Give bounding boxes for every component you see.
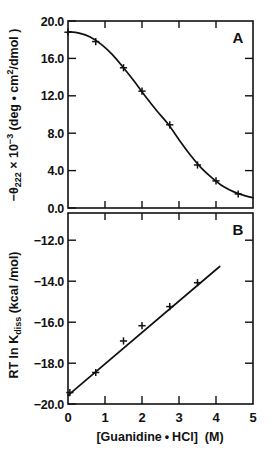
xtick-4: 4 [212, 410, 220, 425]
panel-b-ytick-neg18: −18.0 [34, 357, 64, 371]
panel-b: −12.0 −14.0 −16.0 −18.0 −20.0 B [34, 213, 253, 412]
svg-text:−θ222 × 10−3 (deg • cm2/dmol ): −θ222 × 10−3 (deg • cm2/dmol ) [5, 29, 23, 202]
panel-a-ytick-4: 4.0 [48, 164, 65, 178]
panel-a-curve [68, 32, 253, 198]
svg-text:[Guanidine•HCl](M): [Guanidine•HCl](M) [96, 430, 223, 444]
panel-b-right-ticks [245, 240, 253, 363]
panel-b-top-ticks [105, 213, 216, 220]
panel-b-ytick-neg14: −14.0 [34, 275, 64, 289]
ya-sup-exp: −3 [5, 134, 15, 144]
x-title-bracket-open: [Guanidine [96, 430, 161, 444]
ya-prefix: −θ [7, 187, 21, 201]
x-axis-labels: 0 1 2 3 4 5 [64, 410, 256, 425]
xtick-0: 0 [64, 410, 71, 425]
yb-units: (kcal /mol) [7, 251, 21, 316]
panel-a-data-markers [64, 29, 241, 198]
data-point-marker [166, 303, 173, 310]
ya-units-end: /dmol ) [7, 29, 21, 70]
panel-a-bottom-ticks [105, 201, 216, 208]
ya-mid: × 10 [7, 144, 21, 172]
xtick-2: 2 [138, 410, 145, 425]
data-point-marker [120, 337, 127, 344]
panel-b-ytick-neg12: −12.0 [34, 234, 64, 248]
panel-a-top-ticks [105, 21, 216, 28]
panel-b-bottom-ticks [105, 396, 216, 404]
panel-a-left-ticks [68, 21, 76, 208]
yb-sub-diss: diss [13, 317, 23, 335]
x-title-hcl: HCl] [172, 430, 198, 444]
xtick-3: 3 [175, 410, 182, 425]
panel-b-ytick-neg20: −20.0 [34, 398, 64, 412]
x-title-unit: (M) [205, 430, 224, 444]
xtick-5: 5 [249, 410, 256, 425]
panel-a-ytick-16: 16.0 [41, 52, 64, 66]
panel-a-ytick-20: 20.0 [41, 15, 64, 29]
x-axis-title: [Guanidine•HCl](M) [96, 430, 223, 444]
data-point-marker [194, 279, 201, 286]
panel-a-ytick-12: 12.0 [41, 89, 64, 103]
panel-a: 20.0 16.0 12.0 8.0 4.0 0.0 A [41, 15, 253, 216]
panel-b-left-ticks [68, 240, 76, 404]
panel-b-ytick-neg16: −16.0 [34, 316, 64, 330]
ya-units: (deg • cm [7, 75, 21, 134]
panel-b-letter: B [233, 221, 244, 238]
panel-a-ytick-8: 8.0 [48, 127, 65, 141]
panel-b-y-axis-title: RT ln Kdiss (kcal /mol) [7, 251, 23, 378]
xtick-1: 1 [101, 410, 108, 425]
panel-a-y-axis-title: −θ222 × 10−3 (deg • cm2/dmol ) [5, 29, 23, 202]
panel-a-letter: A [233, 29, 244, 46]
x-title-dot: • [165, 430, 169, 444]
data-point-marker [138, 322, 145, 329]
ya-sub-222: 222 [13, 172, 23, 187]
data-point-marker [64, 29, 71, 36]
panel-a-ytick-0: 0.0 [48, 202, 65, 216]
yb-prefix: RT ln K [7, 335, 21, 379]
figure-container: 20.0 16.0 12.0 8.0 4.0 0.0 A [0, 0, 274, 460]
svg-text:RT ln Kdiss (kcal /mol): RT ln Kdiss (kcal /mol) [7, 251, 23, 378]
data-point-marker [235, 190, 242, 197]
two-panel-figure: 20.0 16.0 12.0 8.0 4.0 0.0 A [0, 0, 274, 460]
panel-a-right-ticks [245, 58, 253, 170]
